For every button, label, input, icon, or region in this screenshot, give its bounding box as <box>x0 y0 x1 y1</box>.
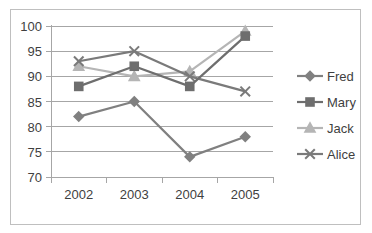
legend-label-alice: Alice <box>327 147 355 162</box>
series-mary-point-2004-square-marker <box>186 82 194 90</box>
x-axis-tick-label: 2003 <box>120 187 149 202</box>
x-axis-tick-label: 2004 <box>175 187 204 202</box>
series-mary-point-2002-square-marker <box>75 82 83 90</box>
series-line-mary <box>79 36 246 86</box>
legend-item-jack[interactable]: Jack <box>297 121 354 136</box>
y-axis-tick-label: 80 <box>28 120 42 135</box>
y-axis-tick-label: 90 <box>28 69 42 84</box>
chart-frame: 7075808590951002002200320042005FredMaryJ… <box>10 9 361 225</box>
legend-label-jack: Jack <box>327 121 354 136</box>
x-axis-tick-label: 2002 <box>64 187 93 202</box>
series-fred-point-2005-diamond-marker <box>241 132 250 141</box>
legend-mary-square-marker <box>306 98 314 106</box>
line-chart: 7075808590951002002200320042005FredMaryJ… <box>11 10 360 224</box>
y-axis-tick-label: 85 <box>28 95 42 110</box>
legend-item-fred[interactable]: Fred <box>297 69 354 84</box>
series-line-fred <box>79 102 246 157</box>
series-mary <box>75 32 250 90</box>
series-mary-point-2005-square-marker <box>241 32 249 40</box>
legend-item-mary[interactable]: Mary <box>297 95 356 110</box>
y-axis-tick-label: 75 <box>28 145 42 160</box>
legend-label-mary: Mary <box>327 95 356 110</box>
y-axis-tick-label: 100 <box>20 19 42 34</box>
y-axis-tick-label: 95 <box>28 44 42 59</box>
series-fred-point-2002-diamond-marker <box>74 112 83 121</box>
legend-fred-diamond-marker <box>305 71 314 80</box>
legend-label-fred: Fred <box>327 69 354 84</box>
series-mary-point-2003-square-marker <box>130 62 138 70</box>
chart-legend: FredMaryJackAlice <box>297 69 356 162</box>
y-axis-tick-label: 70 <box>28 170 42 185</box>
series-jack <box>74 26 251 80</box>
x-axis-tick-label: 2005 <box>231 187 260 202</box>
legend-item-alice[interactable]: Alice <box>297 147 355 162</box>
series-line-jack <box>79 31 246 76</box>
